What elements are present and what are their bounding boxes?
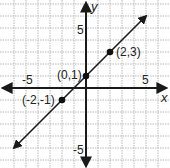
- y-axis-label: y: [90, 0, 99, 14]
- point-neg2-neg1: [59, 97, 66, 104]
- point-label-0-1: (0,1): [57, 68, 82, 82]
- y-tick-pos5: 5: [77, 23, 84, 37]
- y-tick-neg5: -5: [73, 143, 84, 157]
- point-2-3: [107, 49, 114, 56]
- x-axis-label: x: [160, 90, 168, 105]
- point-label-neg2-neg1: (-2,-1): [22, 93, 55, 107]
- x-tick-pos5: 5: [142, 73, 149, 87]
- point-label-2-3: (2,3): [116, 45, 141, 59]
- x-tick-neg5: -5: [22, 73, 33, 87]
- point-0-1: [83, 73, 90, 80]
- coordinate-plane: y x -5 5 5 -5 (-2,-1) (0,1) (2,3): [0, 0, 170, 168]
